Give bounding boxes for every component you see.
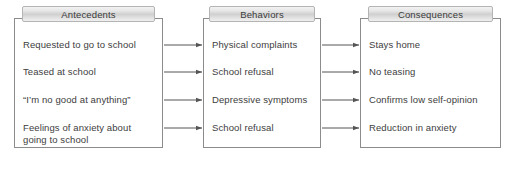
consequence-row-1-line-1: Stays home [369, 39, 501, 51]
antecedent-row-4-line-2: going to school [23, 134, 161, 146]
antecedent-row-4-line-1: Feelings of anxiety about [23, 122, 161, 134]
column-antecedents: Antecedents Requested to go to school Te… [14, 0, 163, 169]
antecedent-row-1-line-1: Requested to go to school [23, 39, 161, 51]
column-header-antecedents: Antecedents [22, 6, 155, 22]
list-item: “I’m no good at anything” [23, 94, 161, 106]
column-behaviors: Behaviors Physical complaints School ref… [203, 0, 321, 169]
column-header-consequences: Consequences [368, 6, 493, 22]
column-header-behaviors: Behaviors [209, 6, 315, 22]
list-item: School refusal [212, 122, 320, 134]
list-item: Physical complaints [212, 39, 320, 51]
antecedent-row-3-line-1: “I’m no good at anything” [23, 94, 161, 106]
consequence-row-3-line-1: Confirms low self-opinion [369, 94, 501, 106]
consequence-row-4-line-1: Reduction in anxiety [369, 122, 501, 134]
behavior-row-4-line-1: School refusal [212, 122, 320, 134]
list-item: No teasing [369, 66, 501, 78]
list-item: Requested to go to school [23, 39, 161, 51]
behavior-row-3-line-1: Depressive symptoms [212, 94, 320, 106]
column-behaviors-rows: Physical complaints School refusal Depre… [203, 0, 321, 169]
behavior-row-1-line-1: Physical complaints [212, 39, 320, 51]
list-item: Stays home [369, 39, 501, 51]
column-antecedents-rows: Requested to go to school Teased at scho… [14, 0, 163, 169]
list-item: Depressive symptoms [212, 94, 320, 106]
behavior-row-2-line-1: School refusal [212, 66, 320, 78]
list-item: Feelings of anxiety about going to schoo… [23, 122, 161, 145]
antecedent-row-2-line-1: Teased at school [23, 66, 161, 78]
abc-functional-assessment-diagram: Antecedents Requested to go to school Te… [0, 0, 516, 169]
column-consequences-rows: Stays home No teasing Confirms low self-… [360, 0, 501, 169]
list-item: Teased at school [23, 66, 161, 78]
list-item: Reduction in anxiety [369, 122, 501, 134]
list-item: Confirms low self-opinion [369, 94, 501, 106]
consequence-row-2-line-1: No teasing [369, 66, 501, 78]
list-item: School refusal [212, 66, 320, 78]
column-consequences: Consequences Stays home No teasing Confi… [360, 0, 501, 169]
